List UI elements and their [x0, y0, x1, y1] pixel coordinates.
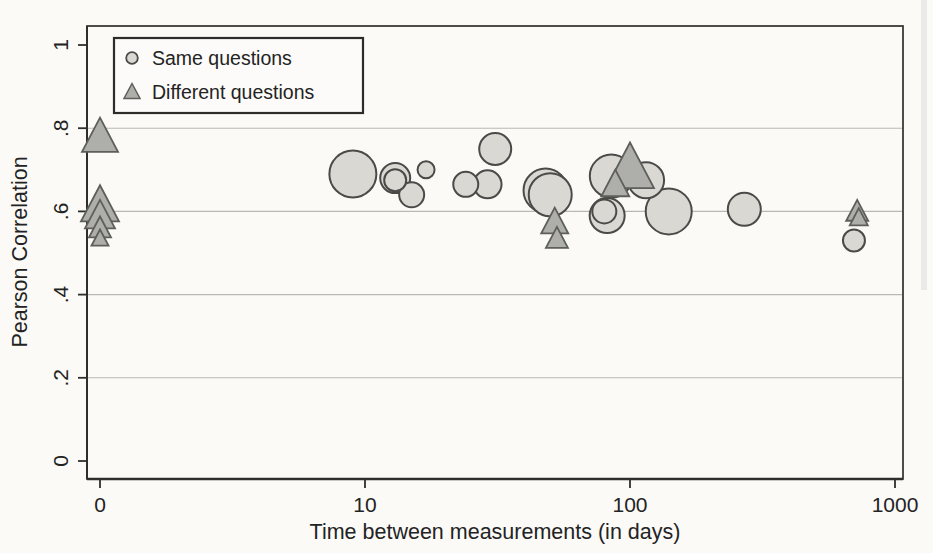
- series-same-questions: [329, 133, 865, 252]
- x-tick-label: 0: [94, 493, 106, 516]
- circle-marker-icon: [126, 52, 138, 64]
- chart-canvas: 0.2.4.6.81 0101001000 Pearson Correlatio…: [0, 0, 933, 553]
- y-tick-label: 1: [49, 39, 72, 51]
- y-axis-ticks: 0.2.4.6.81: [49, 39, 87, 467]
- y-axis-title: Pearson Correlation: [8, 156, 32, 347]
- x-tick-label: 100: [612, 493, 647, 516]
- y-tick-label: .4: [49, 286, 72, 304]
- data-point-circle: [418, 161, 435, 178]
- data-point-circle: [728, 193, 761, 226]
- data-point-circle: [329, 150, 376, 197]
- data-point-circle: [843, 230, 865, 252]
- y-tick-label: 0: [49, 455, 72, 467]
- data-point-circle: [529, 173, 572, 216]
- y-tick-label: .2: [49, 369, 72, 387]
- x-axis-ticks: 0101001000: [94, 479, 918, 516]
- data-point-circle: [479, 133, 511, 165]
- y-tick-label: .8: [49, 119, 72, 137]
- legend-item-different-questions: Different questions: [152, 81, 314, 103]
- bubble-scatter-figure: 0.2.4.6.81 0101001000 Pearson Correlatio…: [0, 0, 933, 553]
- x-tick-label: 1000: [872, 493, 919, 516]
- legend-item-same-questions: Same questions: [152, 47, 292, 69]
- data-point-circle: [384, 169, 406, 191]
- scan-artifact: [921, 0, 927, 290]
- x-tick-label: 10: [353, 493, 376, 516]
- y-tick-label: .6: [49, 203, 72, 221]
- x-axis-title: Time between measurements (in days): [310, 520, 681, 544]
- data-point-circle: [592, 199, 616, 223]
- data-point-circle: [453, 172, 478, 197]
- legend-box: Same questions Different questions: [114, 38, 363, 113]
